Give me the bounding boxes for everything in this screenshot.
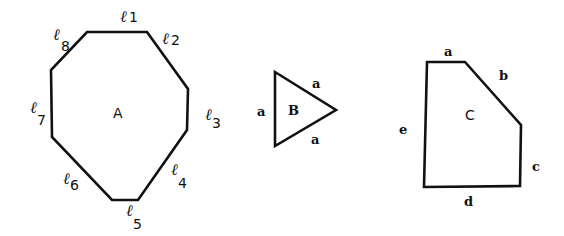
- svg-text:2: 2: [171, 32, 180, 48]
- edge-label-b-left: a: [257, 104, 266, 119]
- edge-label-l2: ℓ 2: [162, 29, 180, 48]
- edge-label-c-diagonal: b: [499, 68, 508, 83]
- svg-text:ℓ: ℓ: [205, 105, 212, 124]
- edge-label-c-top: a: [444, 44, 453, 59]
- svg-text:7: 7: [37, 112, 46, 128]
- shape-a-label: A: [113, 105, 123, 121]
- svg-text:3: 3: [212, 115, 221, 131]
- edge-label-c-bottom: d: [464, 194, 473, 209]
- triangle-outline: [275, 72, 336, 146]
- edge-label-l5: ℓ 5: [126, 201, 142, 232]
- edge-label-c-right: c: [532, 159, 540, 174]
- shape-c-label: C: [465, 107, 475, 123]
- shape-c: C a b c d e: [399, 44, 540, 209]
- edge-label-b-upper: a: [312, 76, 321, 91]
- svg-text:ℓ: ℓ: [53, 25, 60, 44]
- shape-a: A ℓ 1 ℓ 2 ℓ 3 ℓ 4 ℓ 5 ℓ 6 ℓ 7 ℓ: [30, 7, 221, 232]
- svg-text:ℓ: ℓ: [120, 7, 127, 26]
- svg-text:5: 5: [133, 216, 142, 232]
- edge-label-c-left: e: [399, 122, 407, 137]
- diagram-canvas: A ℓ 1 ℓ 2 ℓ 3 ℓ 4 ℓ 5 ℓ 6 ℓ 7 ℓ: [0, 0, 564, 236]
- svg-text:ℓ: ℓ: [171, 160, 178, 179]
- svg-text:ℓ: ℓ: [63, 169, 70, 188]
- shape-b: B a a a: [257, 72, 336, 147]
- edge-label-l3: ℓ 3: [205, 105, 221, 131]
- edge-label-l8: ℓ 8: [53, 25, 70, 54]
- shape-b-label: B: [288, 103, 299, 118]
- edge-label-l6: ℓ 6: [63, 169, 79, 193]
- svg-text:4: 4: [178, 175, 187, 191]
- svg-text:ℓ: ℓ: [126, 201, 133, 220]
- svg-text:ℓ: ℓ: [30, 98, 37, 117]
- edge-label-b-lower: a: [311, 132, 320, 147]
- edge-label-l4: ℓ 4: [171, 160, 187, 191]
- svg-text:1: 1: [129, 9, 138, 25]
- svg-text:8: 8: [61, 38, 70, 54]
- edge-label-l7: ℓ 7: [30, 98, 46, 128]
- svg-text:6: 6: [70, 177, 79, 193]
- svg-text:ℓ: ℓ: [162, 29, 169, 48]
- edge-label-l1: ℓ 1: [120, 7, 138, 26]
